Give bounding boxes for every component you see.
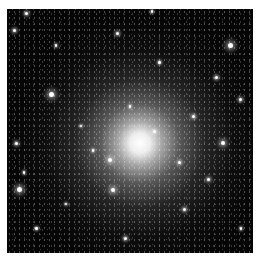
star xyxy=(215,76,218,79)
star xyxy=(239,98,242,101)
star-field xyxy=(7,9,253,253)
star xyxy=(49,92,54,97)
star xyxy=(111,188,115,192)
star xyxy=(158,61,160,63)
star xyxy=(240,227,242,229)
star xyxy=(35,227,37,229)
star xyxy=(129,105,131,107)
star xyxy=(183,208,186,211)
star-cluster-image xyxy=(7,9,253,253)
star xyxy=(92,149,94,151)
star xyxy=(153,130,156,133)
star xyxy=(124,237,127,240)
star xyxy=(17,187,22,192)
star xyxy=(178,161,181,164)
